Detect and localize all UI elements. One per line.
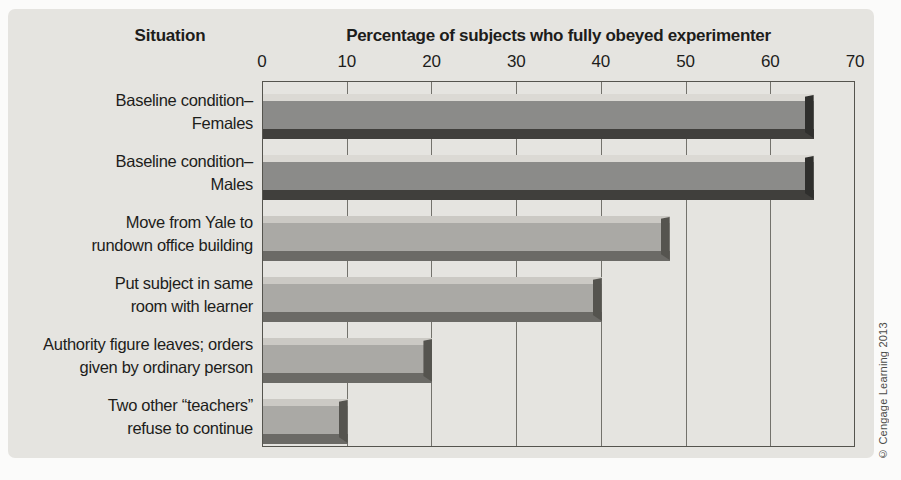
x-tick-label: 60 [750, 52, 790, 72]
bar-3 [263, 277, 602, 322]
bar-body [263, 406, 348, 434]
bar-end-cap [593, 278, 602, 321]
category-label-5: Two other “teachers” refuse to continue [3, 394, 253, 440]
bar-shadow [263, 251, 670, 261]
bar-shadow [263, 434, 348, 444]
x-tick-label: 20 [411, 52, 451, 72]
bar-end-cap [805, 156, 814, 199]
bar-end-cap [661, 217, 670, 260]
bar-shadow [263, 190, 814, 200]
bar-0 [263, 94, 814, 139]
bar-1 [263, 155, 814, 200]
category-label-0: Baseline condition– Females [3, 89, 253, 135]
x-tick-label: 10 [327, 52, 367, 72]
category-label-3: Put subject in same room with learner [3, 272, 253, 318]
x-tick-label: 70 [835, 52, 875, 72]
bar-highlight [263, 155, 814, 162]
chart-title: Percentage of subjects who fully obeyed … [262, 26, 855, 46]
bar-body [263, 223, 670, 251]
bar-shadow [263, 312, 602, 322]
bar-shadow [263, 373, 432, 383]
category-label-1: Baseline condition– Males [3, 150, 253, 196]
x-tick-label: 0 [242, 52, 282, 72]
plot-area [262, 81, 855, 447]
bar-highlight [263, 399, 348, 406]
x-tick-label: 40 [581, 52, 621, 72]
copyright-credit: © Cengage Learning 2013 [872, 296, 894, 460]
bar-body [263, 345, 432, 373]
bar-highlight [263, 338, 432, 345]
situation-header: Situation [85, 26, 255, 46]
bar-end-cap [805, 95, 814, 138]
bar-2 [263, 216, 670, 261]
bar-5 [263, 399, 348, 444]
bar-end-cap [339, 400, 348, 443]
bar-body [263, 284, 602, 312]
category-label-4: Authority figure leaves; orders given by… [3, 333, 253, 379]
bar-shadow [263, 129, 814, 139]
bar-highlight [263, 277, 602, 284]
bar-highlight [263, 94, 814, 101]
x-tick-label: 30 [496, 52, 536, 72]
bar-highlight [263, 216, 670, 223]
category-label-2: Move from Yale to rundown office buildin… [3, 211, 253, 257]
x-tick-label: 50 [666, 52, 706, 72]
bar-body [263, 101, 814, 129]
figure-page: Situation Percentage of subjects who ful… [0, 0, 901, 480]
bar-4 [263, 338, 432, 383]
bar-end-cap [423, 339, 432, 382]
bar-body [263, 162, 814, 190]
